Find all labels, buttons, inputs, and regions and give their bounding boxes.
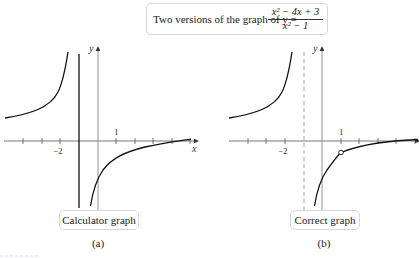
panel-a-label-box: Calculator graph	[59, 210, 139, 230]
panel-a-caption: (a)	[83, 237, 113, 249]
panel-b-label-box: Correct graph	[290, 210, 360, 230]
tick-label-1: 1	[339, 127, 344, 137]
tick-label-1: 1	[114, 127, 119, 137]
left-branch-curve	[229, 52, 292, 118]
left-branch-curve	[5, 52, 68, 118]
removable-discontinuity-hole	[339, 150, 344, 155]
panel-a-label: Calculator graph	[62, 214, 136, 226]
x-axis-label: x	[191, 143, 197, 154]
panel-b-caption: (b)	[309, 237, 339, 249]
right-branch-curve	[91, 139, 192, 206]
panel-b-plot: y −2 1	[229, 43, 419, 211]
right-branch-curve	[315, 140, 419, 207]
panel-b-label: Correct graph	[295, 214, 356, 226]
panel-a-plot: y x −2 1	[4, 43, 198, 211]
y-axis-label: y	[88, 43, 94, 54]
tick-label-neg2: −2	[278, 146, 288, 156]
y-axis-label: y	[312, 43, 318, 54]
tick-label-neg2: −2	[53, 146, 63, 156]
